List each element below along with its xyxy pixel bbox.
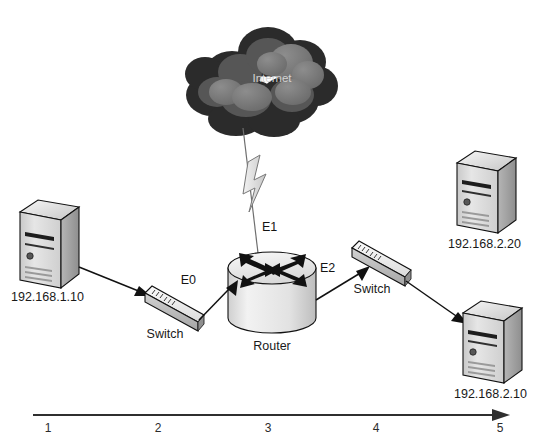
lightning-bolt-icon (243, 155, 266, 212)
server-icon-left: 192.168.1.10 (11, 200, 84, 304)
link-switch2-host3 (406, 281, 468, 324)
cloud-icon: Internet (185, 27, 338, 137)
wan-link-e1: E1 (243, 128, 277, 253)
interface-label-e1: E1 (262, 220, 277, 234)
server-icon-top-right: 192.168.2.20 (448, 151, 521, 251)
server-icon-bottom-right: 192.168.2.10 (454, 301, 527, 401)
switch-icon-left: Switch (145, 286, 204, 341)
network-diagram-canvas: Internet E1 (0, 0, 544, 443)
step-axis: 1 2 3 4 5 (33, 409, 510, 435)
switch-label-left: Switch (147, 327, 184, 341)
router-icon: Router (228, 252, 316, 353)
axis-tick-2: 2 (155, 421, 162, 435)
arrowhead-icon (356, 266, 370, 281)
switch-label-right: Switch (354, 282, 391, 296)
host-label-3: 192.168.2.10 (454, 387, 527, 401)
link-host1-switch1 (79, 267, 151, 296)
axis-arrowhead-icon (492, 409, 510, 421)
host-label-1: 192.168.1.10 (11, 290, 84, 304)
interface-label-e0: E0 (181, 273, 196, 287)
router-label: Router (253, 339, 291, 353)
switch-icon-right: Switch (352, 241, 411, 296)
host-label-2: 192.168.2.20 (448, 237, 521, 251)
axis-tick-4: 4 (373, 421, 380, 435)
axis-tick-3: 3 (265, 421, 272, 435)
axis-tick-5: 5 (497, 421, 504, 435)
network-diagram-svg: Internet E1 (0, 0, 544, 443)
axis-tick-1: 1 (45, 421, 52, 435)
interface-label-e2: E2 (320, 261, 335, 275)
cloud-label: Internet (253, 72, 293, 84)
